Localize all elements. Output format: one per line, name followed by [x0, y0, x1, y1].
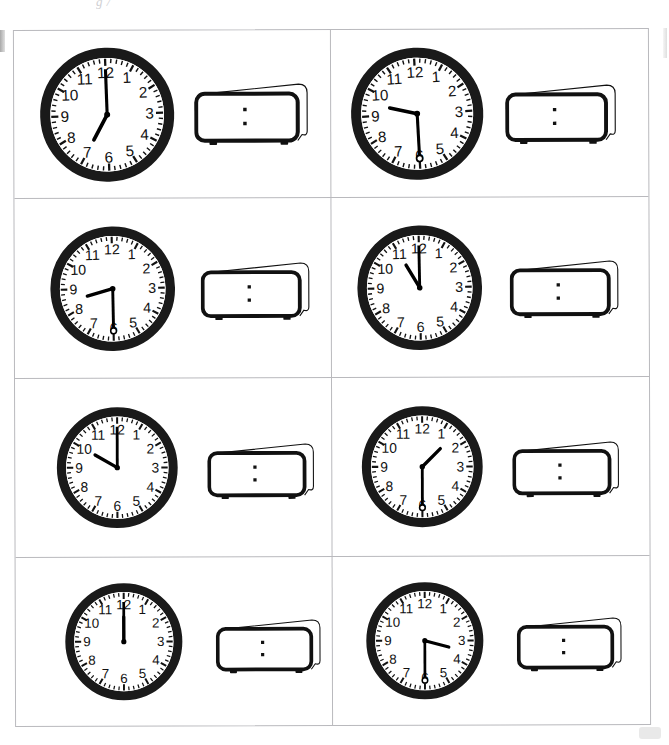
clock-numeral-9: 9	[384, 633, 392, 648]
worksheet-cell-2[interactable]: 121234567891011	[331, 29, 649, 197]
clock-numeral-7: 7	[94, 493, 102, 509]
minute-tick	[51, 110, 55, 111]
digital-clock-4[interactable]	[510, 259, 620, 321]
clock-numeral-5: 5	[436, 313, 444, 329]
minute-hand	[105, 69, 107, 114]
digital-colon-dot-2	[253, 478, 256, 481]
digital-clock-2[interactable]	[505, 83, 617, 147]
minute-tick	[133, 686, 134, 690]
minute-tick	[116, 59, 117, 63]
clock-numeral-10: 10	[385, 615, 400, 630]
digital-clock-6[interactable]	[512, 440, 620, 500]
minute-tick	[467, 104, 471, 105]
clock-numeral-10: 10	[70, 261, 86, 277]
minute-tick	[127, 418, 128, 422]
clock-numeral-8: 8	[88, 653, 96, 668]
analog-clock-10-00: 121234567891011	[53, 403, 181, 531]
digital-clock-answer-box[interactable]	[505, 83, 617, 147]
minute-tick	[431, 334, 432, 338]
minute-tick	[408, 59, 409, 63]
digital-clock-answer-box[interactable]	[201, 261, 311, 323]
clock-numeral-7: 7	[83, 143, 92, 160]
minute-tick	[434, 593, 435, 597]
clock-numeral-11: 11	[85, 246, 100, 262]
worksheet-cell-8[interactable]: 121234567891011	[333, 556, 651, 725]
clock-numeral-1: 1	[435, 245, 443, 261]
worksheet-cell-7[interactable]: 121234567891011	[16, 557, 334, 726]
digital-clock-answer-box[interactable]	[517, 616, 623, 674]
minute-tick	[124, 335, 125, 339]
clock-numeral-8: 8	[385, 478, 393, 494]
worksheet-cell-1[interactable]: 121234567891011	[14, 30, 332, 198]
digital-clock-answer-box[interactable]	[194, 82, 309, 148]
minute-tick	[101, 238, 102, 242]
minute-tick	[99, 59, 100, 63]
digital-clock-answer-box[interactable]	[216, 618, 322, 676]
minute-tick	[468, 121, 472, 122]
analog-clock-face: 121234567891011	[36, 43, 178, 185]
clock-case-front	[209, 453, 304, 496]
minute-tick	[468, 456, 472, 457]
digital-colon-dot-1	[562, 639, 565, 642]
clock-numeral-11: 11	[386, 69, 403, 87]
clock-numeral-5: 5	[129, 314, 137, 330]
minute-tick	[415, 593, 416, 597]
worksheet-cell-4[interactable]: 121234567891011	[331, 197, 649, 377]
clock-numeral-6: 6	[104, 148, 113, 165]
digital-colon-dot-1	[557, 283, 560, 286]
minute-tick	[122, 237, 123, 241]
clock-case-front	[507, 94, 606, 140]
minute-tick	[412, 417, 413, 421]
clock-numeral-12: 12	[414, 421, 429, 437]
clock-numeral-10: 10	[371, 85, 389, 103]
clock-numeral-3: 3	[454, 102, 463, 119]
clock-numeral-4: 4	[152, 653, 160, 668]
clock-numeral-4: 4	[452, 478, 460, 494]
minute-tick	[469, 650, 473, 651]
analog-clock-7-00: 121234567891011	[36, 43, 178, 185]
worksheet-grid: 1212345678910111212345678910111212345678…	[13, 28, 651, 727]
digital-clock-1[interactable]	[194, 82, 309, 148]
digital-clock-7[interactable]	[216, 618, 322, 676]
scan-edge-artifact-left	[0, 30, 5, 52]
minute-tick	[114, 594, 115, 598]
clock-numeral-4: 4	[450, 123, 459, 140]
digital-clock-answer-box[interactable]	[207, 442, 315, 502]
digital-clock-3[interactable]	[201, 261, 311, 323]
clock-numeral-1: 1	[437, 426, 445, 442]
digital-colon-dot-2	[261, 653, 264, 656]
clock-case-front	[514, 451, 609, 494]
clock-numeral-8: 8	[67, 128, 76, 145]
clock-numeral-11: 11	[91, 427, 105, 443]
digital-clock-8[interactable]	[517, 616, 623, 674]
minute-tick	[76, 651, 80, 652]
clock-numeral-7: 7	[394, 142, 403, 159]
clock-pair: 121234567891011	[358, 402, 649, 531]
analog-clock-face: 121234567891011	[53, 403, 181, 531]
minute-hand-tip	[422, 678, 427, 683]
minute-tick	[425, 164, 426, 168]
clock-numeral-10: 10	[381, 440, 397, 456]
clock-numeral-8: 8	[75, 300, 83, 316]
clock-numeral-6: 6	[120, 671, 128, 686]
digital-clock-answer-box[interactable]	[510, 259, 620, 321]
clock-numeral-8: 8	[382, 300, 390, 316]
clock-numeral-1: 1	[128, 246, 136, 262]
digital-clock-answer-box[interactable]	[512, 440, 620, 500]
clock-numeral-5: 5	[133, 493, 141, 509]
clock-case-front	[203, 272, 300, 316]
clock-numeral-9: 9	[60, 107, 69, 124]
minute-tick	[107, 513, 108, 517]
clock-numeral-10: 10	[84, 616, 99, 631]
minute-hand-tip	[420, 505, 426, 511]
clock-numeral-10: 10	[377, 260, 393, 276]
worksheet-cell-3[interactable]: 121234567891011	[14, 198, 332, 378]
digital-colon-dot-1	[553, 107, 556, 110]
clock-numeral-9: 9	[75, 460, 83, 476]
clock-numeral-3: 3	[148, 279, 156, 295]
clock-numeral-9: 9	[376, 280, 384, 296]
worksheet-cell-5[interactable]: 121234567891011	[15, 378, 333, 557]
analog-clock-11-00: 121234567891011	[354, 221, 486, 353]
digital-clock-5[interactable]	[207, 442, 315, 502]
worksheet-cell-6[interactable]: 121234567891011	[332, 377, 650, 556]
